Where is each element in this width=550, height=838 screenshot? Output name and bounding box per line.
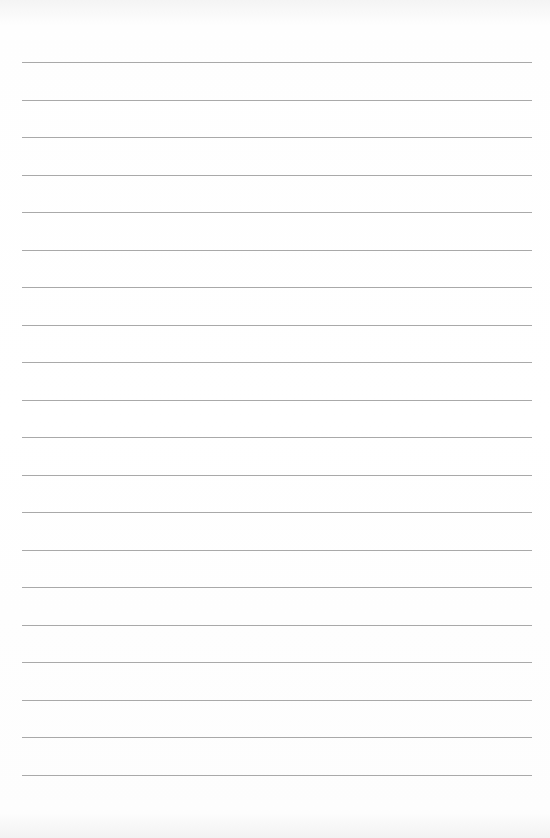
ruled-line	[22, 325, 532, 326]
ruled-line	[22, 550, 532, 551]
ruled-line	[22, 175, 532, 176]
ruled-line	[22, 512, 532, 513]
ruled-line	[22, 700, 532, 701]
ruled-line	[22, 587, 532, 588]
ruled-line	[22, 137, 532, 138]
ruled-line	[22, 625, 532, 626]
ruled-line	[22, 437, 532, 438]
lined-paper-page	[0, 0, 550, 838]
ruled-line	[22, 662, 532, 663]
ruled-line	[22, 775, 532, 776]
ruled-line	[22, 737, 532, 738]
ruled-line	[22, 62, 532, 63]
ruled-line	[22, 362, 532, 363]
ruled-line	[22, 475, 532, 476]
ruled-line	[22, 212, 532, 213]
ruled-line	[22, 287, 532, 288]
ruled-line	[22, 250, 532, 251]
ruled-line	[22, 100, 532, 101]
ruled-line	[22, 400, 532, 401]
